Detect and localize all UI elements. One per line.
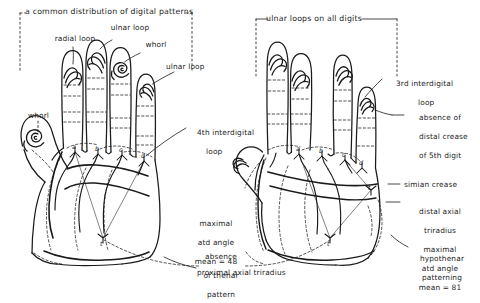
left-label-whorl-ring: whorl [137,40,175,49]
left-index-radial-loop-pattern [64,68,82,88]
left-label-ulnar-loop-little: ulnar loop [166,62,205,71]
left-label-proximal-axial-triradius: proximal axial triradius [197,268,286,277]
right-index-ulnar-loop-pattern [292,71,310,91]
right-panel-title: ulnar loops on all digits [266,14,362,23]
right-label-simian-crease: simian crease [404,180,457,189]
right-palmar-creases [268,172,377,186]
right-ring-ulnar-loop-pattern [336,67,352,85]
right-triradius-d: d [359,159,363,168]
left-dashed-lines [32,78,200,266]
left-label-4th-interdigital-line2: loop [197,147,222,156]
left-palmar-creases [44,152,149,260]
right-triradius-b: b [319,147,323,156]
right-triradius-a: a [296,145,300,154]
right-triradius-c: c [342,151,346,160]
left-triradius-t: t [100,240,103,249]
left-panel-title: a common distribution of digital pattern… [25,7,193,16]
left-middle-ulnar-loop-pattern [87,53,105,73]
left-label-4th-interdigital-loop: 4th interdigital loop [187,119,254,166]
left-triradius-b: b [95,145,99,154]
right-label-axial-line2: triradius [424,226,456,235]
left-hand-outline [21,40,160,266]
left-label-thenar-line1: absence [205,252,237,261]
left-label-radial-loop: radial loop [48,34,102,43]
left-label-atd-line1: maximal [200,219,233,228]
left-triradius-a: a [72,143,76,152]
right-middle-ulnar-loop-pattern [269,55,287,75]
left-label-4th-interdigital-line1: 4th interdigital [197,128,254,137]
right-triradius-t-proximal: t [327,240,330,249]
left-label-whorl-thumb: whorl [20,111,57,120]
left-finger-webs [82,150,136,157]
left-little-ulnar-loop-pattern [140,84,154,100]
right-triradius-t: t [368,184,371,193]
left-triradius-d: d [141,152,145,161]
left-triradius-c: c [119,146,123,155]
left-thumb-whorl-pattern [24,130,44,151]
left-ring-whorl-pattern [112,63,129,80]
right-dashed-lines [244,80,382,266]
right-label-absence-distal-crease: absence of distal crease of 5th digit [409,104,468,170]
left-label-thenar-line3: pattern [207,290,235,299]
right-label-hypothenar-patterning: hypothenar patterning [402,245,472,292]
left-palm-ridge-lines [55,152,144,233]
right-label-3rd-interdigital-line1: 3rd interdigital [396,79,453,88]
left-label-ulnar-loop-middle: ulnar loop [103,23,157,32]
right-label-hypo-line2: patterning [422,273,462,282]
right-label-crease-line1: absence of [419,113,461,122]
left-triradii-marks [70,147,149,243]
right-little-ulnar-loop-pattern [360,98,374,114]
right-label-hypo-line1: hypothenar [420,254,464,263]
right-triradii-marks [294,149,376,243]
right-label-crease-line2: distal crease [419,132,468,141]
right-label-crease-line3: of 5th digit [419,151,461,160]
right-label-axial-line1: distal axial [419,207,461,216]
